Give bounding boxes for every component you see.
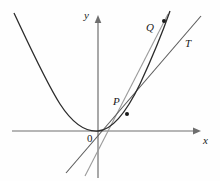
- y-axis-arrowhead: [95, 15, 102, 23]
- figure-canvas: [0, 0, 220, 181]
- origin-label: 0: [87, 133, 93, 144]
- point-P-marker: [125, 112, 129, 116]
- point-Q-label: Q: [146, 22, 154, 33]
- point-P-label: P: [113, 96, 120, 107]
- y-axis-label: y: [84, 10, 89, 21]
- y-axis: [95, 15, 102, 178]
- tangent-line-label-T: T: [185, 38, 191, 49]
- x-axis-arrowhead: [193, 128, 201, 135]
- tangent-line-T: [66, 16, 201, 173]
- x-axis-label: x: [203, 135, 208, 146]
- figure-container: y x 0 P Q T: [0, 0, 220, 181]
- point-Q-marker: [162, 19, 166, 23]
